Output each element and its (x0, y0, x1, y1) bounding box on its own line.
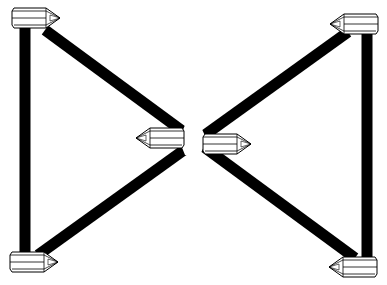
crystal-bottom-right-icon (329, 257, 377, 277)
crystal-grid-diagram (0, 0, 387, 285)
crystal-bottom-left-icon (10, 252, 58, 272)
crystal-center-right-icon (203, 134, 251, 154)
crystal-center-left-icon (136, 128, 184, 148)
crystal-top-left-icon (12, 8, 60, 28)
diagram-canvas (0, 0, 387, 285)
crystal-top-right-icon (330, 14, 378, 34)
